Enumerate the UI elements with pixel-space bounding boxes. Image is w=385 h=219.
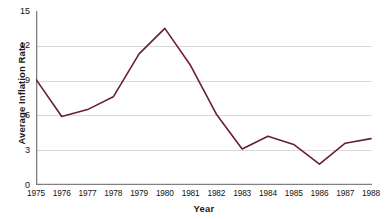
plot-area xyxy=(36,11,372,185)
gridlines xyxy=(36,47,372,151)
chart-canvas xyxy=(36,11,372,185)
x-tick-label-1988: 1988 xyxy=(354,189,385,197)
y-tick-label-6: 6 xyxy=(0,111,30,120)
axis-spines xyxy=(36,11,372,185)
tick-marks xyxy=(36,12,372,186)
inflation-data-line xyxy=(36,28,371,164)
x-axis-title: Year xyxy=(36,203,372,214)
y-tick-label-9: 9 xyxy=(0,76,30,85)
y-tick-label-15: 15 xyxy=(0,7,30,16)
y-tick-label-3: 3 xyxy=(0,146,30,155)
y-tick-label-12: 12 xyxy=(0,41,30,50)
